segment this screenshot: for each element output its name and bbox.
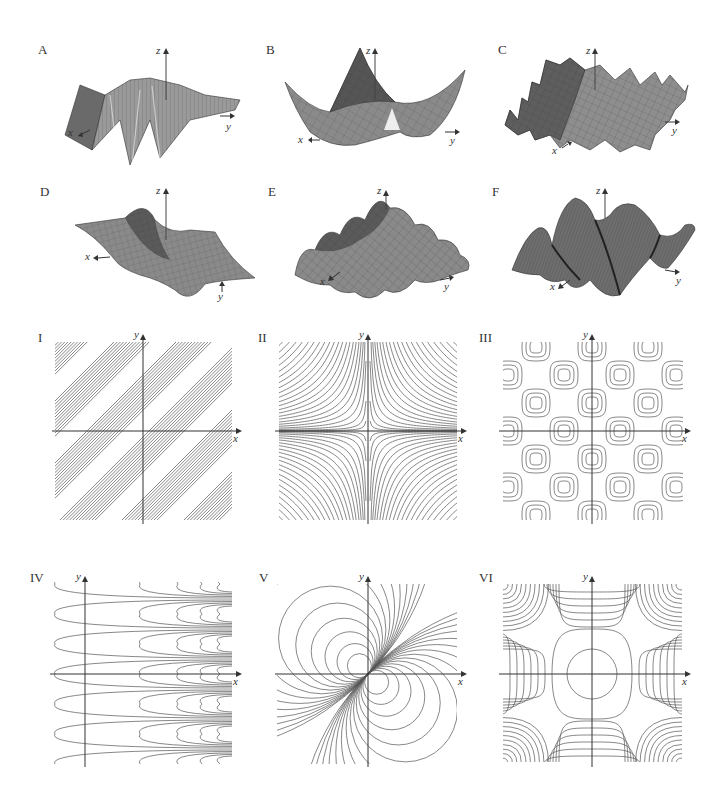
x-axis-label: x	[458, 432, 463, 444]
x-axis-label: x	[233, 432, 238, 444]
contour-ii-graphic	[255, 320, 475, 550]
y-axis-label: y	[359, 328, 364, 340]
contour-v-graphic	[255, 560, 475, 802]
z-axis-label: z	[596, 184, 600, 196]
contour-panel-i: I x y	[30, 320, 250, 550]
contour-iv-graphic	[30, 560, 250, 802]
contour-panel-iii: III x y	[485, 320, 724, 550]
surface-c-graphic	[490, 40, 724, 180]
x-axis-label: x	[233, 675, 238, 687]
y-axis-label: y	[672, 124, 677, 136]
y-axis-label: y	[583, 570, 588, 582]
surface-panel-e: E z x y	[260, 180, 490, 320]
contour-panel-ii: II x y	[255, 320, 475, 550]
surface-f-graphic	[490, 180, 724, 320]
z-axis-label: z	[366, 44, 370, 56]
x-axis-label: x	[552, 144, 557, 156]
contour-iii-graphic	[485, 320, 724, 550]
y-axis-label: y	[359, 570, 364, 582]
x-axis-label: x	[68, 126, 73, 138]
surface-panel-a: A z x y	[30, 40, 250, 180]
contour-panel-iv: IV x y	[30, 560, 250, 802]
z-axis-label: z	[586, 44, 590, 56]
contour-i-graphic	[30, 320, 250, 550]
y-axis-label: y	[76, 570, 81, 582]
y-axis-label: y	[134, 328, 139, 340]
contour-panel-v: V x y	[255, 560, 475, 802]
surface-panel-c: C z x y	[490, 40, 724, 180]
x-axis-label: x	[682, 432, 687, 444]
y-axis-label: y	[450, 134, 455, 146]
y-axis-label: y	[444, 280, 449, 292]
z-axis-label: z	[377, 184, 381, 196]
surface-panel-f: F z x y	[490, 180, 724, 320]
surface-panel-b: B z x y	[260, 40, 480, 180]
y-axis-label: y	[226, 120, 231, 132]
surface-a-graphic	[30, 40, 250, 180]
y-axis-label: y	[676, 274, 681, 286]
x-axis-label: x	[550, 280, 555, 292]
y-axis-label: y	[218, 290, 223, 302]
y-axis-label: y	[583, 328, 588, 340]
x-axis-label: x	[458, 675, 463, 687]
x-axis-label: x	[320, 275, 325, 287]
contour-vi-graphic	[485, 560, 724, 802]
x-axis-label: x	[682, 675, 687, 687]
x-axis-label: x	[85, 250, 90, 262]
surface-e-graphic	[260, 180, 490, 320]
surface-d-graphic	[30, 180, 260, 310]
surface-b-graphic	[260, 40, 480, 180]
surface-panel-d: D z x y	[30, 180, 260, 310]
contour-panel-vi: VI x y	[485, 560, 724, 802]
z-axis-label: z	[156, 44, 160, 56]
x-axis-label: x	[298, 133, 303, 145]
z-axis-label: z	[156, 184, 160, 196]
